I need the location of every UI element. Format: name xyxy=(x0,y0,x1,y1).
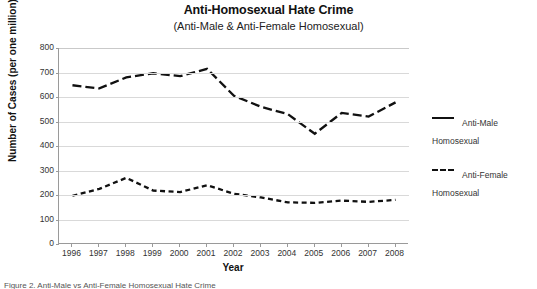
chart-figure: Anti-Homosexual Hate Crime (Anti-Male & … xyxy=(0,0,537,289)
y-tick-mark xyxy=(56,48,59,49)
gridline xyxy=(59,195,409,196)
y-tick-mark xyxy=(56,73,59,74)
gridline xyxy=(59,73,409,74)
chart-subtitle: (Anti-Male & Anti-Female Homosexual) xyxy=(0,20,537,32)
gridline xyxy=(59,220,409,221)
x-tick-mark xyxy=(152,244,153,247)
legend-line-dashed-icon xyxy=(432,169,454,171)
series-line-anti-male xyxy=(72,69,395,134)
y-tick-label: 200 xyxy=(8,189,54,199)
legend-label-anti-male: Anti-Male Homosexual xyxy=(432,118,498,146)
legend-entry-anti-male: Anti-Male Homosexual xyxy=(432,112,537,148)
y-axis-title: Number of Cases (per one million) xyxy=(7,0,18,181)
y-tick-label: 0 xyxy=(8,238,54,248)
x-tick-mark xyxy=(71,244,72,247)
series-line-anti-female xyxy=(72,178,395,203)
legend-entry-anti-female: Anti-Female Homosexual xyxy=(432,164,537,200)
x-tick-mark xyxy=(98,244,99,247)
plot-area xyxy=(58,48,408,244)
y-tick-mark xyxy=(56,97,59,98)
x-tick-mark xyxy=(233,244,234,247)
y-tick-mark xyxy=(56,195,59,196)
y-tick-mark xyxy=(56,220,59,221)
legend-line-solid-icon xyxy=(432,117,454,119)
x-tick-mark xyxy=(260,244,261,247)
gridline xyxy=(59,97,409,98)
legend-label-anti-female: Anti-Female Homosexual xyxy=(432,170,508,198)
x-tick-mark xyxy=(206,244,207,247)
gridline xyxy=(59,48,409,49)
x-tick-mark xyxy=(125,244,126,247)
x-tick-mark xyxy=(395,244,396,247)
y-tick-mark xyxy=(56,122,59,123)
legend: Anti-Male Homosexual Anti-Female Homosex… xyxy=(432,112,537,216)
chart-title: Anti-Homosexual Hate Crime xyxy=(0,3,537,17)
x-tick-mark xyxy=(314,244,315,247)
gridline xyxy=(59,122,409,123)
x-tick-label: 2008 xyxy=(378,248,412,258)
x-axis-title: Year xyxy=(58,262,408,273)
gridline xyxy=(59,171,409,172)
x-tick-mark xyxy=(179,244,180,247)
x-tick-mark xyxy=(287,244,288,247)
y-tick-mark xyxy=(56,244,59,245)
x-tick-mark xyxy=(341,244,342,247)
x-tick-mark xyxy=(368,244,369,247)
y-tick-mark xyxy=(56,171,59,172)
gridline xyxy=(59,146,409,147)
figure-caption: Figure 2. Anti-Male vs Anti-Female Homos… xyxy=(4,281,216,289)
y-tick-label: 100 xyxy=(8,214,54,224)
y-tick-mark xyxy=(56,146,59,147)
